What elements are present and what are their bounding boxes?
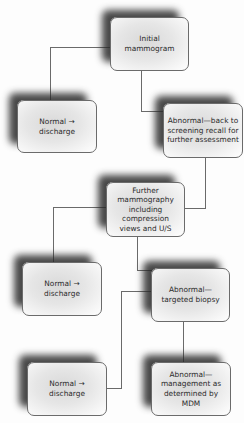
node-label: Normal → discharge bbox=[26, 279, 98, 298]
node-label: Abnormal—management as determined by MDM bbox=[155, 370, 227, 408]
node-abnormal-mdm: Abnormal—management as determined by MDM bbox=[151, 362, 231, 416]
connector-n1-n3-v bbox=[141, 70, 142, 111]
connector-n6-n7-h2 bbox=[106, 388, 122, 389]
connector-n1-n2-h bbox=[50, 47, 111, 48]
connector-n4-n5-h bbox=[53, 207, 107, 208]
node-abnormal-recall: Abnormal—back to screening recall for fu… bbox=[163, 103, 243, 158]
node-further-mammography: Further mammography including compressio… bbox=[106, 182, 185, 237]
node-label: Initial mammogram bbox=[114, 34, 185, 53]
node-label: Abnormal—back to screening recall for fu… bbox=[167, 116, 239, 145]
connector-n1-n2-v bbox=[50, 47, 51, 101]
node-label: Normal → discharge bbox=[21, 117, 93, 136]
node-normal-discharge-1: Normal → discharge bbox=[17, 100, 97, 153]
connector-n3-n4-h bbox=[184, 208, 206, 209]
connector-n6-n8-v bbox=[183, 321, 184, 363]
mammography-flowchart: Initial mammogram Normal → discharge Abn… bbox=[0, 0, 244, 423]
connector-n4-n6-v bbox=[137, 236, 138, 271]
connector-n1-n3-h bbox=[141, 111, 164, 112]
connector-n3-n4-v bbox=[205, 157, 206, 209]
connector-n6-n7-v bbox=[121, 291, 122, 389]
node-label: Abnormal—targeted biopsy bbox=[155, 285, 226, 304]
node-normal-discharge-2: Normal → discharge bbox=[22, 262, 102, 316]
node-label: Further mammography including compressio… bbox=[110, 186, 181, 234]
node-abnormal-biopsy: Abnormal—targeted biopsy bbox=[151, 268, 230, 322]
node-normal-discharge-3: Normal → discharge bbox=[27, 362, 107, 416]
connector-n4-n5-v bbox=[53, 207, 54, 263]
node-initial-mammogram: Initial mammogram bbox=[110, 17, 189, 71]
connector-n6-n7-h1 bbox=[121, 291, 152, 292]
node-label: Normal → discharge bbox=[31, 379, 103, 398]
connector-n4-n6-h bbox=[137, 270, 152, 271]
